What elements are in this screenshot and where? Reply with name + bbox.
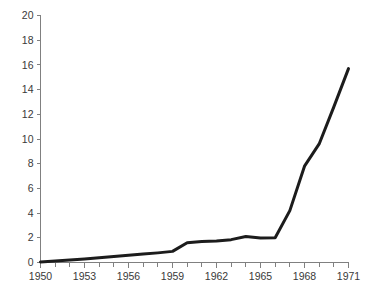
- x-axis-tick-label: 1950: [29, 270, 53, 282]
- data-line-series-1: [41, 69, 349, 262]
- x-axis-tick-label: 1956: [117, 270, 141, 282]
- x-axis-tick-label: 1959: [161, 270, 185, 282]
- y-axis: 02468101214161820: [22, 9, 41, 268]
- line-chart: 02468101214161820 1950195319561959196219…: [0, 0, 365, 288]
- y-axis-tick-label: 20: [22, 9, 34, 21]
- y-axis-tick-label: 10: [22, 133, 34, 145]
- y-axis-tick-label: 18: [22, 34, 34, 46]
- y-axis-tick-label: 6: [28, 182, 34, 194]
- x-axis-tick-label: 1965: [249, 270, 273, 282]
- y-axis-tick-label: 8: [28, 157, 34, 169]
- x-axis-tick-label: 1971: [337, 270, 361, 282]
- x-axis: 19501953195619591962196519681971: [29, 263, 361, 282]
- y-axis-tick-label: 4: [28, 207, 34, 219]
- y-axis-tick-label: 12: [22, 108, 34, 120]
- y-axis-tick-label: 0: [28, 256, 34, 268]
- data-series-group: [41, 69, 349, 262]
- x-axis-tick-label: 1962: [205, 270, 229, 282]
- x-axis-tick-label: 1968: [293, 270, 317, 282]
- chart-plot-area: 02468101214161820 1950195319561959196219…: [0, 0, 365, 288]
- x-axis-tick-label: 1953: [73, 270, 97, 282]
- y-axis-tick-label: 14: [22, 83, 34, 95]
- y-axis-tick-label: 2: [28, 231, 34, 243]
- y-axis-tick-label: 16: [22, 59, 34, 71]
